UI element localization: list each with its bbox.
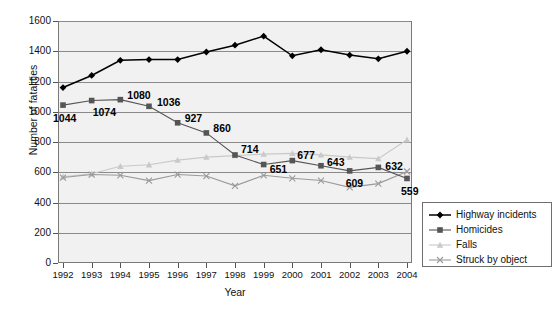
y-tick-label: 0 <box>45 258 58 268</box>
x-axis-title: Year <box>58 286 412 298</box>
triangle-marker-icon <box>427 239 453 251</box>
gridline <box>59 142 411 143</box>
x-tick <box>120 263 121 268</box>
gridline <box>59 51 411 52</box>
legend-item-homicides[interactable]: Homicides <box>427 222 548 237</box>
data-point <box>437 227 443 233</box>
gridline <box>59 21 411 22</box>
legend-item-highway-incidents[interactable]: Highway incidents <box>427 207 548 222</box>
chart-legend: Highway incidentsHomicidesFallsStruck by… <box>422 202 552 267</box>
fatalities-line-chart: 02004006008001000120014001600 Number of … <box>0 0 556 315</box>
x-tick <box>92 263 93 268</box>
legend-label: Highway incidents <box>453 209 537 220</box>
legend-label: Falls <box>453 239 477 250</box>
x-tick <box>350 263 351 268</box>
data-label: 927 <box>185 113 203 123</box>
x-tick <box>321 263 322 268</box>
data-label: 1036 <box>157 97 180 107</box>
data-label: 632 <box>385 161 403 171</box>
gridline <box>59 233 411 234</box>
gridline <box>59 82 411 83</box>
x-tick <box>149 263 150 268</box>
plot-area <box>58 21 412 263</box>
data-label: 1074 <box>93 107 116 117</box>
data-label: 714 <box>241 144 259 154</box>
x-tick <box>264 263 265 268</box>
data-label: 1080 <box>127 90 150 100</box>
data-label: 609 <box>346 178 364 188</box>
x-tick <box>378 263 379 268</box>
cross-marker-icon <box>427 254 453 266</box>
data-point <box>437 211 444 218</box>
square-marker-icon <box>427 224 453 236</box>
x-tick <box>407 263 408 268</box>
x-tick <box>63 263 64 268</box>
x-tick <box>235 263 236 268</box>
data-label: 643 <box>327 157 345 167</box>
x-tick <box>206 263 207 268</box>
data-label: 677 <box>297 150 315 160</box>
data-label: 559 <box>401 186 419 196</box>
data-label: 860 <box>213 123 231 133</box>
x-tick <box>178 263 179 268</box>
gridline <box>59 172 411 173</box>
y-tick-label: 200 <box>34 228 58 238</box>
legend-item-falls[interactable]: Falls <box>427 237 548 252</box>
x-tick-label: 2004 <box>387 270 427 280</box>
legend-item-struck-by-object[interactable]: Struck by object <box>427 252 548 267</box>
diamond-marker-icon <box>427 209 453 221</box>
x-tick <box>292 263 293 268</box>
legend-label: Struck by object <box>453 254 527 265</box>
y-axis-title: Number of fatalities <box>27 30 39 190</box>
y-tick-label: 1600 <box>29 16 58 26</box>
data-label: 651 <box>270 164 288 174</box>
gridline <box>59 203 411 204</box>
data-label: 1044 <box>53 113 76 123</box>
legend-label: Homicides <box>453 224 503 235</box>
y-tick-label: 400 <box>34 198 58 208</box>
